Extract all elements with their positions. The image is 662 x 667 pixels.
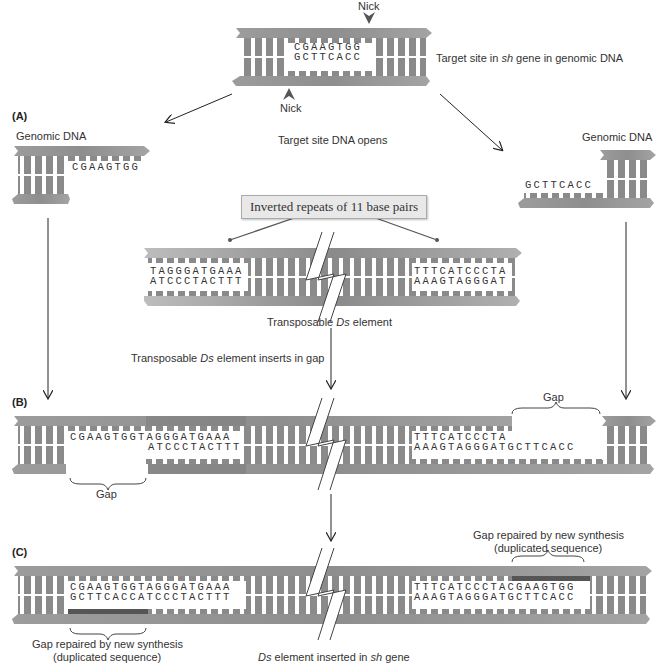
c-left-bottom-seq: GCTTCACCATCCCTACTTT xyxy=(70,592,232,602)
repair-left-line1: Gap repaired by new synthesis xyxy=(32,638,183,650)
break-symbol-c-icon xyxy=(306,548,346,640)
c-right-bottom-seq: AAAGTAGGGATGCTTCACC xyxy=(414,592,576,602)
nick-label-bottom: Nick xyxy=(280,102,301,114)
b-left-bottom-seq: ATCCCTACTTT xyxy=(148,442,242,452)
repair-left-line2: (duplicated sequence) xyxy=(53,651,161,663)
break-symbol-b-icon xyxy=(306,398,346,490)
target-site-opens-label: Target site DNA opens xyxy=(278,134,387,146)
panel-a-letter: (A) xyxy=(12,110,27,122)
ds-inserted-caption: Ds element inserted in sh gene xyxy=(258,651,410,663)
ds-element-caption: Transposable Ds element xyxy=(267,316,392,328)
nick-arrow-top-icon xyxy=(363,12,375,24)
inverted-repeats-callout: Inverted repeats of 11 base pairs xyxy=(241,195,427,219)
gap-label-left: Gap xyxy=(96,488,117,500)
ds-left-bottom-seq: ATCCCTACTTT xyxy=(150,276,244,286)
diagram-graphics xyxy=(0,0,662,667)
target-site-caption: Target site in sh gene in genomic DNA xyxy=(436,52,623,64)
panel-b-letter: (B) xyxy=(12,396,27,408)
repair-right-line1: Gap repaired by new synthesis xyxy=(473,529,624,541)
nick-arrow-bottom-icon xyxy=(283,88,295,100)
gap-label-right: Gap xyxy=(543,391,564,403)
genomic-dna-left-fragment xyxy=(12,146,150,204)
ds-right-bottom-seq: AAAGTAGGGAT xyxy=(414,276,508,286)
b-right-bottom-seq: AAAGTAGGGATGCTTCACC xyxy=(414,442,576,452)
genomic-dna-right-label: Genomic DNA xyxy=(582,131,652,143)
target-seq-bottom: GCTTCACC xyxy=(294,52,362,62)
right-fragment-seq: GCTTCACC xyxy=(525,180,593,190)
repair-right-line2: (duplicated sequence) xyxy=(494,542,602,554)
left-fragment-seq: CGAAGTGG xyxy=(72,162,140,172)
genomic-dna-left-label: Genomic DNA xyxy=(16,130,86,142)
break-symbol-icon xyxy=(306,232,346,322)
insert-in-gap-caption: Transposable Ds element inserts in gap xyxy=(131,352,324,364)
panel-c-letter: (C) xyxy=(12,546,27,558)
nick-label-top: Nick xyxy=(358,0,379,12)
